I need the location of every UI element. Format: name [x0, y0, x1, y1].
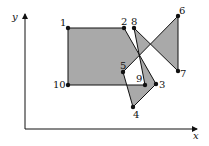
x-axis-label: x [193, 131, 199, 141]
y-axis-label: y [12, 12, 18, 22]
vertex-dot-9 [143, 83, 147, 87]
vertex-label-6: 6 [179, 6, 185, 16]
vertex-label-5: 5 [120, 61, 126, 71]
vertex-label-3: 3 [159, 80, 165, 90]
vertex-dot-10 [66, 83, 70, 87]
vertex-label-7: 7 [180, 69, 186, 79]
vertex-label-10: 10 [53, 80, 66, 90]
vertex-dot-3 [154, 82, 158, 86]
vertex-label-9: 9 [136, 74, 142, 84]
vertex-label-8: 8 [131, 17, 137, 27]
diagram-svg [0, 0, 209, 146]
vertex-dot-1 [66, 26, 70, 30]
vertex-label-4: 4 [133, 110, 139, 120]
vertex-label-2: 2 [121, 17, 127, 27]
vertex-label-1: 1 [60, 18, 66, 28]
polygon-diagram: y x 1 2 3 4 5 6 7 8 9 10 [0, 0, 209, 146]
